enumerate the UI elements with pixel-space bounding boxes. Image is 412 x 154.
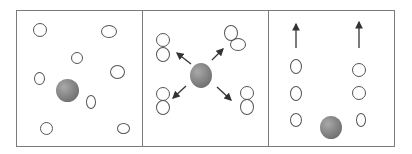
particle xyxy=(117,123,130,134)
particle xyxy=(240,86,254,100)
particle xyxy=(230,38,246,51)
particle xyxy=(71,52,83,64)
particle xyxy=(352,63,366,77)
particle xyxy=(101,25,117,38)
particle xyxy=(290,59,302,74)
particle xyxy=(156,33,170,47)
sphere xyxy=(190,63,212,88)
diagram xyxy=(0,0,412,154)
particle xyxy=(356,113,366,127)
particle xyxy=(156,47,170,62)
particle xyxy=(156,87,170,101)
sphere xyxy=(56,79,79,102)
particle xyxy=(34,72,45,85)
particle xyxy=(33,23,47,37)
particle xyxy=(290,113,302,127)
particle xyxy=(156,100,170,115)
sphere xyxy=(320,116,342,139)
particle xyxy=(240,99,254,115)
particle xyxy=(40,122,53,135)
particle xyxy=(290,86,302,101)
particle xyxy=(86,95,96,109)
particle xyxy=(110,65,125,79)
particle xyxy=(352,86,366,100)
